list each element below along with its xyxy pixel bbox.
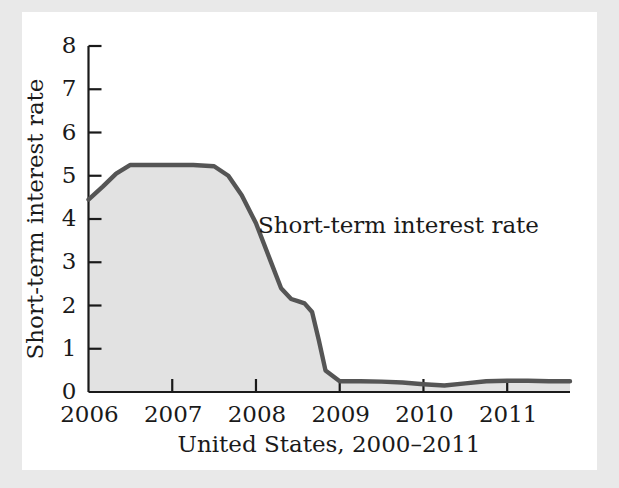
x-axis-tick-label: 2010 [395, 401, 454, 427]
series-annotation-label: Short-term interest rate [258, 212, 539, 238]
y-axis-tick-label: 8 [62, 32, 77, 58]
x-axis-tick-label: 2007 [144, 401, 203, 427]
x-axis-tick-label: 2008 [228, 401, 287, 427]
x-axis-title: United States, 2000–2011 [178, 431, 481, 457]
x-axis-tick-labels: 200620072008200920102011 [60, 401, 537, 427]
y-axis-title: Short-term interest rate [22, 79, 48, 360]
figure-root: 012345678 200620072008200920102011 Short… [0, 0, 619, 488]
series-area-fill [89, 165, 571, 392]
chart-svg: 012345678 200620072008200920102011 Short… [0, 0, 619, 488]
x-axis-tick-label: 2011 [479, 401, 538, 427]
y-axis-tick-labels: 012345678 [62, 32, 77, 404]
y-axis-tick-label: 6 [62, 119, 77, 145]
y-axis-tick-label: 3 [62, 248, 77, 274]
y-axis-tick-label: 7 [62, 75, 77, 101]
y-axis-tick-label: 1 [62, 335, 77, 361]
x-axis-tick-label: 2009 [311, 401, 370, 427]
x-axis-tick-label: 2006 [60, 401, 119, 427]
y-axis-tick-label: 5 [62, 162, 77, 188]
y-axis-tick-label: 4 [62, 205, 77, 231]
y-axis-tick-label: 2 [62, 292, 77, 318]
